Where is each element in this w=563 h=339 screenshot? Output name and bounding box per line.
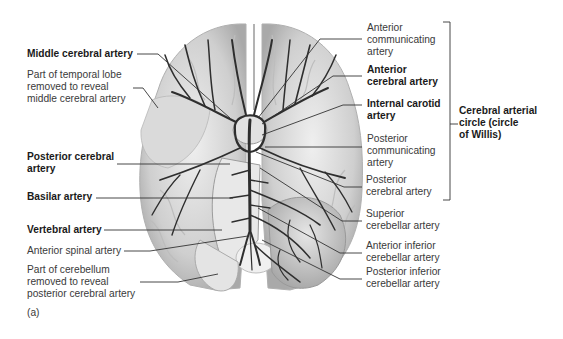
- label-temporal-lobe-removed: Part of temporal lobe removed to reveal …: [27, 69, 126, 106]
- label-vertebral-artery: Vertebral artery: [27, 224, 102, 236]
- label-anterior-spinal-artery: Anterior spinal artery: [27, 245, 121, 257]
- label-posterior-cerebral-artery-right: Posterior cerebral artery: [366, 174, 432, 198]
- label-anterior-communicating-artery: Anterior communicating artery: [367, 22, 436, 59]
- label-posterior-communicating-artery: Posterior communicating artery: [367, 133, 436, 170]
- label-cerebral-arterial-circle: Cerebral arterial circle (circle of Will…: [459, 105, 537, 142]
- panel-label: (a): [27, 307, 39, 319]
- label-basilar-artery: Basilar artery: [27, 191, 92, 203]
- label-anterior-inferior-cerebellar-artery: Anterior inferior cerebellar artery: [366, 240, 440, 264]
- label-internal-carotid-artery: Internal carotid artery: [367, 98, 441, 122]
- label-middle-cerebral-artery: Middle cerebral artery: [27, 48, 133, 60]
- label-anterior-cerebral-artery: Anterior cerebral artery: [367, 64, 438, 88]
- label-cerebellum-removed: Part of cerebellum removed to reveal pos…: [27, 264, 135, 301]
- label-superior-cerebellar-artery: Superior cerebellar artery: [366, 208, 440, 232]
- label-posterior-inferior-cerebellar-artery: Posterior inferior cerebellar artery: [366, 266, 441, 290]
- label-posterior-cerebral-artery-left: Posterior cerebral artery: [27, 151, 114, 175]
